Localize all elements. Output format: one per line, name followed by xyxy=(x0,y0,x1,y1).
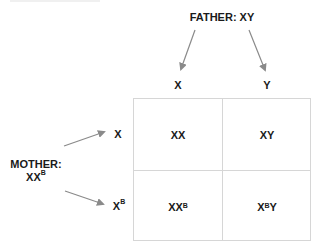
cell-xby: XBY xyxy=(223,171,311,242)
mother-bottom-arrow-icon xyxy=(65,191,103,204)
father-allele-y: Y xyxy=(263,79,270,92)
mother-genotype: XXB xyxy=(10,171,61,184)
cell-xx: XX xyxy=(134,99,222,170)
punnett-square: XX XY XXB XBY xyxy=(133,98,311,241)
cell-xxb: XXB xyxy=(134,171,222,242)
father-left-arrow-icon xyxy=(181,30,195,69)
father-right-arrow-icon xyxy=(249,30,265,70)
mother-allele-xb: XB xyxy=(113,200,125,213)
mother-top-arrow-icon xyxy=(64,132,104,146)
father-label: FATHER: XY xyxy=(190,11,255,24)
father-allele-x: X xyxy=(174,79,181,92)
mother-label-line1: MOTHER: xyxy=(10,158,61,171)
cell-xy: XY xyxy=(223,99,311,170)
mother-allele-x: X xyxy=(114,128,121,141)
mother-label: MOTHER: XXB xyxy=(10,158,61,184)
